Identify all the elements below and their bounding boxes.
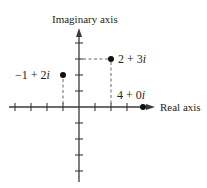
point-marker-icon bbox=[60, 72, 66, 78]
point-2-plus-3i: 2 + 3i bbox=[108, 52, 146, 66]
point-label: 2 + 3i bbox=[118, 52, 146, 66]
imaginary-axis bbox=[75, 28, 83, 182]
point-label: −1 + 2i bbox=[15, 68, 50, 82]
complex-plane-diagram: Imaginary axis Real axis bbox=[0, 0, 207, 188]
imaginary-axis-label: Imaginary axis bbox=[52, 13, 118, 25]
projection-lines bbox=[63, 59, 111, 104]
point-label: 4 + 0i bbox=[117, 88, 145, 102]
point-neg1-plus-2i: −1 + 2i bbox=[15, 68, 66, 82]
point-marker-icon bbox=[140, 104, 146, 110]
real-axis-arrow-icon bbox=[146, 104, 155, 110]
imaginary-axis-arrow-icon bbox=[76, 28, 82, 37]
real-axis-label: Real axis bbox=[160, 101, 201, 113]
point-marker-icon bbox=[108, 56, 114, 62]
real-axis bbox=[9, 103, 155, 111]
